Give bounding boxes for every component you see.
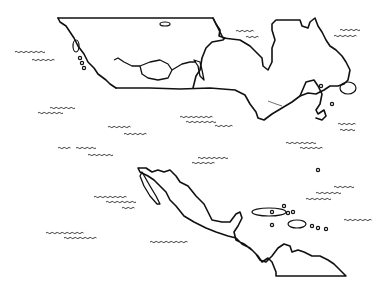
water-wave-mark	[46, 232, 84, 233]
islet	[270, 223, 273, 226]
islet	[80, 61, 83, 64]
water-wave-mark	[50, 107, 75, 108]
islet	[82, 66, 85, 69]
prairie-lake-line	[140, 60, 172, 80]
water-wave-mark	[64, 237, 97, 238]
water-wave-mark	[108, 126, 131, 127]
west-coast-outline	[58, 18, 116, 88]
islet	[286, 211, 289, 214]
water-wave-mark	[192, 162, 215, 163]
islet	[78, 56, 81, 59]
river-line	[268, 101, 282, 106]
water-wave-mark	[286, 142, 316, 143]
islet	[324, 227, 327, 230]
hispaniola	[288, 220, 306, 228]
water-wave-mark	[334, 186, 354, 187]
inner-borders	[114, 58, 282, 204]
water-wave-mark	[58, 147, 71, 148]
water-wave-mark	[186, 121, 216, 122]
north-america-map	[0, 0, 383, 283]
water-wave-mark	[338, 123, 356, 124]
water-wave-mark	[344, 219, 372, 220]
west-inner-line	[114, 58, 196, 70]
islet	[319, 84, 322, 87]
water-wave-mark	[215, 125, 233, 126]
islet	[316, 168, 319, 171]
water-wave-mark	[94, 196, 127, 197]
islet	[291, 210, 294, 213]
newfoundland	[340, 82, 356, 94]
islet	[316, 226, 319, 229]
islet	[282, 204, 285, 207]
water-wave-mark	[334, 35, 357, 36]
water-wave-mark	[198, 157, 228, 158]
water-wave-mark	[316, 192, 341, 193]
water-wave-mark	[306, 198, 331, 199]
islet	[310, 224, 313, 227]
water-wave-mark	[88, 154, 113, 155]
water-wave-mark	[76, 147, 96, 148]
cuba	[252, 208, 286, 216]
water-wave-mark	[246, 36, 259, 37]
water-wave-mark	[106, 201, 136, 202]
water-wave-mark	[340, 29, 360, 30]
water-wave-mark	[38, 112, 63, 113]
island-north	[160, 22, 170, 26]
water-wave-mark	[150, 241, 188, 242]
mexico-central-america-outline	[138, 168, 346, 276]
water-wave-mark	[122, 207, 135, 208]
water-wave-mark	[15, 51, 45, 52]
hudson-region-outline	[213, 18, 350, 92]
water-wave-mark	[340, 129, 355, 130]
water-wave-mark	[32, 59, 55, 60]
us-canada-border-outline	[116, 88, 320, 120]
islet	[270, 210, 273, 213]
water-wave-mark	[300, 147, 323, 148]
water-wave-mark	[180, 116, 213, 117]
islet	[330, 102, 333, 105]
water-wave-mark	[236, 30, 254, 31]
islands	[73, 22, 356, 228]
water-wave-mark	[124, 133, 147, 134]
